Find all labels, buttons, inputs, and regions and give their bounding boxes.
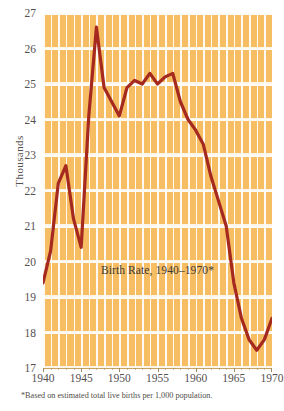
x-tick-mark-minor bbox=[165, 368, 166, 370]
x-axis-tick-1960: 1960 bbox=[184, 372, 207, 384]
x-axis-tick-labels: 1940194519501955196019651970 bbox=[0, 372, 284, 390]
y-axis-tick-21: 21 bbox=[25, 220, 37, 232]
x-axis-tick-1970: 1970 bbox=[261, 372, 284, 384]
y-axis-tick-20: 20 bbox=[25, 256, 37, 268]
x-axis-tick-1950: 1950 bbox=[108, 372, 131, 384]
x-axis-tick-1965: 1965 bbox=[222, 372, 245, 384]
x-tick-mark-minor bbox=[51, 368, 52, 370]
plot-area bbox=[43, 13, 272, 368]
x-tick-mark-minor bbox=[226, 368, 227, 370]
x-tick-mark-minor bbox=[150, 368, 151, 370]
y-axis-tick-26: 26 bbox=[25, 43, 37, 55]
x-tick-mark-minor bbox=[127, 368, 128, 370]
y-axis-tick-19: 19 bbox=[25, 291, 37, 303]
x-tick-mark-minor bbox=[211, 368, 212, 370]
x-tick-mark-minor bbox=[241, 368, 242, 370]
x-axis-tick-1940: 1940 bbox=[32, 372, 55, 384]
x-tick-mark-minor bbox=[66, 368, 67, 370]
x-tick-mark-minor bbox=[74, 368, 75, 370]
y-axis-tick-18: 18 bbox=[25, 327, 37, 339]
x-tick-mark-minor bbox=[58, 368, 59, 370]
x-tick-mark-minor bbox=[135, 368, 136, 370]
chart-footnote: *Based on estimated total live births pe… bbox=[21, 391, 212, 400]
y-axis-tick-27: 27 bbox=[25, 7, 37, 19]
x-tick-mark-minor bbox=[264, 368, 265, 370]
birth-rate-chart-figure: Thousands 1718192021222324252627 Birth R… bbox=[0, 0, 284, 411]
chart-title: Birth Rate, 1940–1970* bbox=[43, 264, 272, 276]
x-tick-mark-minor bbox=[180, 368, 181, 370]
x-tick-mark-minor bbox=[89, 368, 90, 370]
birth-rate-line-series bbox=[43, 13, 272, 368]
x-tick-mark-minor bbox=[142, 368, 143, 370]
x-tick-mark-minor bbox=[188, 368, 189, 370]
y-axis-tick-22: 22 bbox=[25, 185, 37, 197]
x-tick-mark-minor bbox=[257, 368, 258, 370]
x-tick-mark-minor bbox=[249, 368, 250, 370]
x-axis-tick-1945: 1945 bbox=[70, 372, 93, 384]
x-axis-tick-1955: 1955 bbox=[146, 372, 169, 384]
y-axis-tick-labels: 1718192021222324252627 bbox=[0, 0, 40, 411]
x-tick-mark-minor bbox=[112, 368, 113, 370]
y-axis-tick-23: 23 bbox=[25, 149, 37, 161]
y-axis-tick-25: 25 bbox=[25, 78, 37, 90]
x-tick-mark-minor bbox=[219, 368, 220, 370]
x-tick-mark-minor bbox=[173, 368, 174, 370]
x-tick-mark-minor bbox=[104, 368, 105, 370]
x-tick-mark-minor bbox=[96, 368, 97, 370]
x-tick-mark-minor bbox=[203, 368, 204, 370]
y-axis-tick-24: 24 bbox=[25, 114, 37, 126]
